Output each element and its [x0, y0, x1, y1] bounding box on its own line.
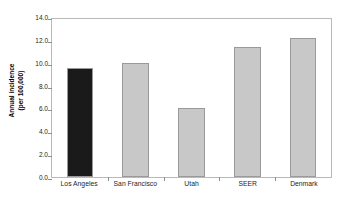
y-axis-tick-mark — [48, 133, 52, 134]
y-axis-tick-mark — [48, 156, 52, 157]
x-axis-tick-label: SEER — [220, 181, 276, 188]
y-axis-tick-mark — [48, 110, 52, 111]
y-axis-tick-label: 14.0 — [26, 15, 48, 22]
bar-series — [52, 19, 331, 177]
y-axis-tick-labels: 14.012.010.08.06.04.02.00.0 — [26, 18, 48, 178]
bar — [122, 63, 149, 177]
y-axis-tick-mark — [48, 179, 52, 180]
y-axis-tick-label: 6.0 — [26, 106, 48, 113]
bar-slot — [275, 19, 331, 177]
y-axis-tick-label: 8.0 — [26, 83, 48, 90]
bar-slot — [108, 19, 164, 177]
bar-slot — [164, 19, 220, 177]
y-axis-tick-mark — [48, 65, 52, 66]
x-axis-tick-labels: Los AngelesSan FranciscoUtahSEERDenmark — [51, 181, 332, 188]
y-axis-tick-label: 10.0 — [26, 60, 48, 67]
bar-slot — [52, 19, 108, 177]
y-axis-tick-mark — [48, 42, 52, 43]
x-axis-tick-label: San Francisco — [107, 181, 163, 188]
bar — [234, 47, 261, 177]
bar — [178, 108, 205, 177]
bar — [67, 68, 94, 177]
bar-slot — [219, 19, 275, 177]
plot-area — [51, 18, 332, 178]
y-axis-tick-label: 0.0 — [26, 175, 48, 182]
y-axis-tick-mark — [48, 88, 52, 89]
y-axis-tick-label: 4.0 — [26, 129, 48, 136]
x-axis-tick-label: Utah — [163, 181, 219, 188]
y-axis-title-line1: Annual incidence — [9, 63, 18, 117]
y-axis-tick-label: 2.0 — [26, 152, 48, 159]
bar-chart-figure: Annual incidence (per 100,000) 14.012.01… — [0, 0, 342, 214]
y-axis-tick-label: 12.0 — [26, 38, 48, 45]
bar — [290, 38, 317, 177]
x-axis-tick-label: Denmark — [276, 181, 332, 188]
y-axis-title-line2: (per 100,000) — [17, 63, 26, 117]
y-axis-tick-mark — [48, 19, 52, 20]
x-axis-tick-label: Los Angeles — [51, 181, 107, 188]
